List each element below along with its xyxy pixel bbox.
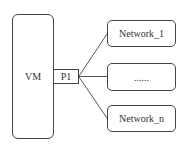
network-1-label: Network_1 <box>119 28 164 39</box>
network-1-node: Network_1 <box>107 20 176 47</box>
network-ellipsis-label: ...... <box>134 72 149 83</box>
vm-node: VM <box>12 14 54 139</box>
network-ellipsis-node: ...... <box>107 63 176 91</box>
port-p1-node: P1 <box>53 69 79 84</box>
network-n-label: Network_n <box>119 113 164 124</box>
port-label: P1 <box>61 71 72 82</box>
vm-label: VM <box>25 71 41 82</box>
link-p1-network-n <box>79 77 107 118</box>
network-n-node: Network_n <box>107 105 176 132</box>
link-p1-network-1 <box>79 34 107 76</box>
